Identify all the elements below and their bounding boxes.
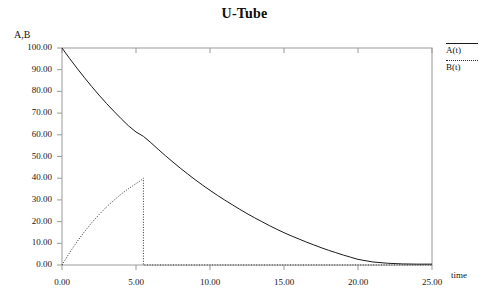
- y-tick-label: 0.00: [6, 259, 52, 269]
- plot-frame: [62, 48, 432, 265]
- chart-figure: U-Tube A,B time 0.0010.0020.0030.0040.00…: [0, 0, 489, 303]
- legend-line-solid-icon: [446, 43, 478, 44]
- y-tick-label: 20.00: [6, 216, 52, 226]
- series-layer: [62, 48, 432, 265]
- x-tick-label: 15.00: [259, 277, 309, 287]
- series-line-at: [62, 48, 432, 264]
- y-tick-label: 100.00: [6, 42, 52, 52]
- legend-line-dotted-icon: [446, 60, 478, 61]
- y-tick-label: 60.00: [6, 129, 52, 139]
- y-tick-marks: [57, 48, 62, 265]
- plot-canvas: [0, 0, 489, 303]
- x-tick-label: 20.00: [333, 277, 383, 287]
- legend-item-a: A(t): [446, 42, 486, 59]
- y-tick-label: 90.00: [6, 64, 52, 74]
- x-tick-label: 25.00: [407, 277, 457, 287]
- legend-label-a: A(t): [446, 45, 461, 55]
- y-tick-label: 50.00: [6, 151, 52, 161]
- y-tick-label: 80.00: [6, 85, 52, 95]
- legend-label-b: B(t): [446, 62, 461, 72]
- x-tick-label: 0.00: [37, 277, 87, 287]
- y-tick-label: 30.00: [6, 194, 52, 204]
- x-tick-label: 5.00: [111, 277, 161, 287]
- chart-legend: A(t) B(t): [446, 42, 486, 76]
- x-tick-marks: [62, 48, 432, 270]
- y-tick-label: 10.00: [6, 237, 52, 247]
- legend-item-b: B(t): [446, 59, 486, 76]
- x-tick-label: 10.00: [185, 277, 235, 287]
- y-tick-label: 70.00: [6, 107, 52, 117]
- plot-border: [62, 48, 432, 265]
- y-tick-label: 40.00: [6, 172, 52, 182]
- series-line-bt: [62, 178, 432, 265]
